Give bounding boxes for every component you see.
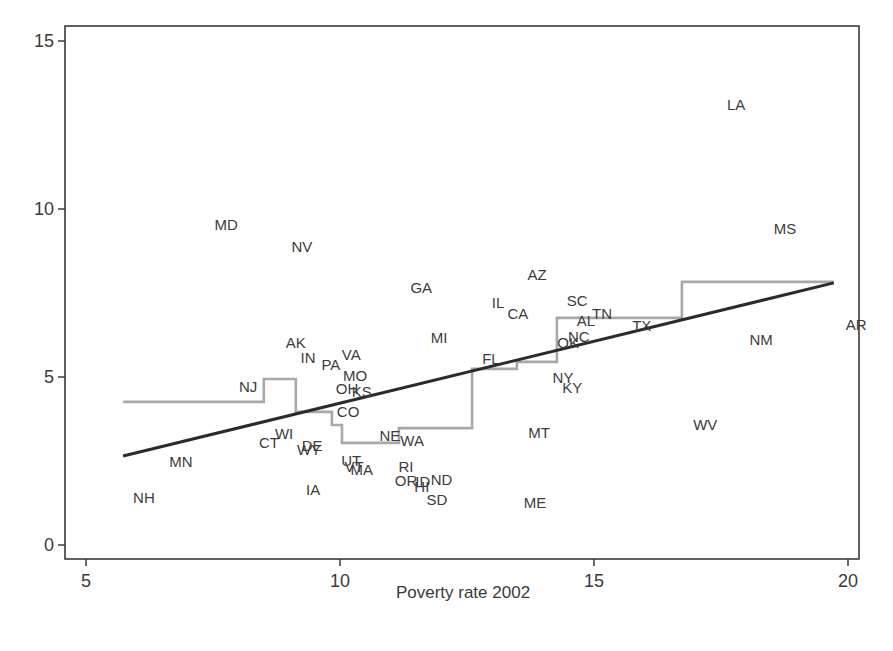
state-label-ga: GA: [410, 279, 432, 296]
state-label-ms: MS: [774, 220, 797, 237]
state-label-fl: FL: [482, 350, 500, 367]
x-tick-label: 15: [584, 571, 604, 591]
state-label-mi: MI: [431, 329, 448, 346]
state-label-ks: KS: [352, 383, 372, 400]
state-label-la: LA: [727, 96, 745, 113]
state-label-pa: PA: [321, 356, 340, 373]
state-label-tx: TX: [632, 317, 651, 334]
y-tick-label: 0: [44, 535, 54, 555]
state-label-ok: OK: [557, 334, 579, 351]
state-label-tn: TN: [592, 305, 612, 322]
state-label-nj: NJ: [239, 378, 257, 395]
state-label-me: ME: [524, 494, 547, 511]
state-label-nv: NV: [291, 238, 312, 255]
y-tick-label: 5: [44, 367, 54, 387]
state-label-ia: IA: [306, 481, 320, 498]
state-label-nm: NM: [749, 331, 772, 348]
state-label-wy: WY: [297, 441, 321, 458]
state-label-il: IL: [492, 294, 505, 311]
state-label-sd: SD: [427, 491, 448, 508]
state-labels: LAMDNVMSAZGASCILCATNALARTXMINMNCOKAKINVA…: [133, 96, 867, 510]
state-label-az: AZ: [528, 266, 547, 283]
x-tick-label: 20: [838, 571, 858, 591]
x-tick-label: 10: [330, 571, 350, 591]
fit-lines: [123, 282, 834, 456]
linear-fit-line: [123, 283, 834, 456]
state-label-nd: ND: [431, 471, 453, 488]
state-label-in: IN: [301, 349, 316, 366]
x-tick-label: 5: [81, 571, 91, 591]
x-axis-title: Poverty rate 2002: [396, 583, 530, 602]
state-label-ca: CA: [507, 305, 528, 322]
state-label-ar: AR: [846, 316, 867, 333]
state-label-ma: MA: [351, 461, 374, 478]
state-label-ak: AK: [286, 334, 306, 351]
y-axis: 051015: [34, 31, 65, 555]
state-label-wa: WA: [400, 432, 424, 449]
state-label-md: MD: [215, 216, 238, 233]
step-fit-line: [123, 282, 834, 443]
state-label-ct: CT: [259, 434, 279, 451]
state-label-mn: MN: [169, 453, 192, 470]
state-label-nh: NH: [133, 489, 155, 506]
state-label-va: VA: [342, 346, 361, 363]
state-label-sc: SC: [567, 292, 588, 309]
state-label-mt: MT: [528, 424, 550, 441]
y-tick-label: 15: [34, 31, 54, 51]
y-tick-label: 10: [34, 199, 54, 219]
scatter-chart: 051015 5101520 LAMDNVMSAZGASCILCATNALART…: [0, 0, 893, 651]
state-label-wv: WV: [693, 416, 717, 433]
state-label-ky: KY: [562, 379, 582, 396]
state-label-co: CO: [337, 403, 360, 420]
state-label-ne: NE: [379, 427, 400, 444]
